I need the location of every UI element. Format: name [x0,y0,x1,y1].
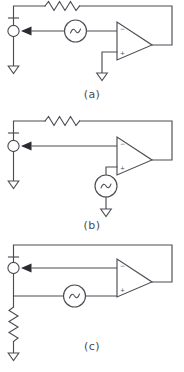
caption-b: (b) [84,219,101,232]
opamp-plus-ground-a [97,73,108,81]
feedback-resistor-a [45,2,80,11]
plus-input-wire-a [102,52,117,73]
opamp-inverting-label-c: − [120,262,125,269]
opamp-noninverting-label-b: + [120,164,125,171]
current-arrow-b [21,141,32,150]
current-arrow-c [21,263,32,272]
circuit-panel-a: − + (a) [0,0,184,105]
circuit-figure-sheet: − + (a) − + [0,0,184,372]
feedback-resistor-b [45,117,80,126]
output-node-b[interactable] [8,140,19,151]
opamp-noninverting-label-c: + [120,286,125,293]
source-ground-b [101,209,112,217]
resistor-ground-c [8,353,19,361]
opamp-inverting-label-b: − [120,140,125,147]
feedback-wire-c [14,245,173,282]
caption-c: (c) [84,340,100,353]
plus-input-wire-b [106,167,117,175]
opamp-inverting-label-a: − [120,25,125,32]
circuit-panel-c: − + (c) [0,235,184,372]
node-ground-b [8,181,19,189]
load-resistor-c [9,307,18,342]
circuit-diagram-c: − + (c) [0,235,184,372]
output-node-a[interactable] [8,25,19,36]
circuit-diagram-b: − + (b) [0,105,184,235]
circuit-diagram-a: − + (a) [0,0,184,105]
current-arrow-a [21,26,32,35]
node-ground-a [8,66,19,74]
feedback-wire-left-b [14,121,46,133]
feedback-wire-left-a [14,6,46,18]
caption-a: (a) [84,88,101,101]
output-node-c[interactable] [8,262,19,273]
circuit-panel-b: − + (b) [0,105,184,235]
opamp-noninverting-label-a: + [120,49,125,56]
